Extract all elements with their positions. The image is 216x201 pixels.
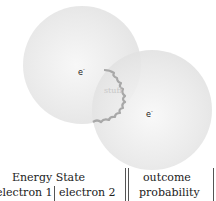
double-divider-right [128,168,129,201]
outcome-header: outcome [143,171,191,184]
electron-1-column-header: electron 1 [0,186,53,199]
electron-2-column-header: electron 2 [59,186,116,199]
stuff-label: stuff [104,86,122,95]
energy-state-header: Energy State [12,171,85,184]
electron-2-label: e- [146,108,153,119]
electron-1-label: e- [78,66,85,77]
probability-header: probability [139,186,200,199]
diagram-canvas: e- e- stuff Energy State electron 1 elec… [0,0,216,201]
double-divider-left [125,168,126,201]
right-divider [213,168,214,201]
column-divider [54,186,55,201]
